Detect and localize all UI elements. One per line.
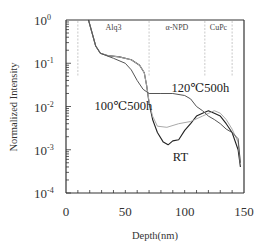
x-tick-label: 150 xyxy=(234,204,254,219)
x-tick-label: 50 xyxy=(119,204,132,219)
x-tick-label: 0 xyxy=(63,204,70,219)
y-tick-label: 10-1 xyxy=(34,56,54,71)
series-annotation: 100℃500h xyxy=(94,99,152,113)
y-axis-title: Normalized Intensity xyxy=(8,62,19,152)
y-tick-label: 10-4 xyxy=(34,186,54,201)
layer-label: CuPc xyxy=(210,23,228,32)
layer-label: Alq3 xyxy=(105,23,121,32)
y-tick-label: 10-3 xyxy=(34,143,54,158)
depth-profile-chart: Alq3α-NPDCuPc 05010015010010-110-210-310… xyxy=(0,0,274,248)
layer-labels: Alq3α-NPDCuPc xyxy=(105,23,227,32)
y-tick-label: 100 xyxy=(34,13,51,28)
y-tick-label: 10-2 xyxy=(34,100,54,115)
x-axis-title: Depth(nm) xyxy=(132,230,179,242)
series-annotation: RT xyxy=(173,150,189,164)
plot-axes xyxy=(66,20,244,193)
series-annotation: 120℃500h xyxy=(172,81,230,95)
x-tick-label: 100 xyxy=(175,204,195,219)
layer-label: α-NPD xyxy=(166,23,189,32)
